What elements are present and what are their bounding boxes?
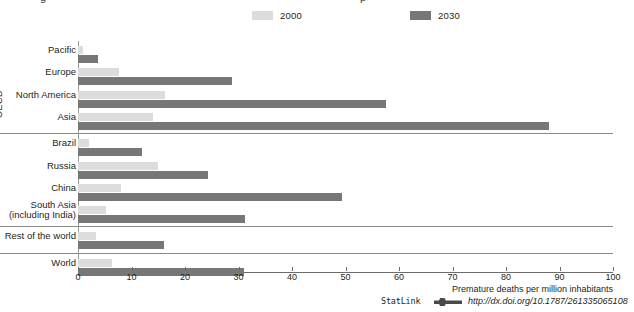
bar-2030-china bbox=[78, 193, 342, 201]
x-tick-label-60: 60 bbox=[394, 272, 404, 282]
title-fragment-left: g bbox=[40, 0, 46, 3]
plot-area bbox=[78, 41, 613, 273]
x-tick-mark bbox=[453, 267, 454, 271]
title-fragment-right: p bbox=[360, 0, 366, 3]
statlink-label: StatLink bbox=[381, 296, 420, 306]
statlink-footer: StatLink http://dx.doi.org/10.1787/26133… bbox=[0, 296, 634, 310]
bar-2000-russia bbox=[78, 162, 158, 170]
x-tick-mark bbox=[292, 267, 293, 271]
bar-2030-asia bbox=[78, 122, 549, 130]
table-row bbox=[78, 183, 613, 202]
bar-2030-rest-of-the-world bbox=[78, 241, 164, 249]
x-tick-label-30: 30 bbox=[233, 272, 243, 282]
bar-2000-rest-of-the-world bbox=[78, 232, 96, 240]
legend-swatch-2000 bbox=[252, 11, 273, 20]
chart-body bbox=[0, 38, 634, 278]
x-tick-label-70: 70 bbox=[447, 272, 457, 282]
x-tick-mark bbox=[613, 267, 614, 271]
table-row bbox=[78, 231, 613, 250]
legend-label-2000: 2000 bbox=[280, 10, 302, 21]
bar-2030-europe bbox=[78, 77, 232, 85]
table-row bbox=[78, 90, 613, 109]
x-tick-mark bbox=[185, 267, 186, 271]
bar-2030-north-america bbox=[78, 100, 386, 108]
x-tick-mark bbox=[132, 267, 133, 271]
x-tick-label-40: 40 bbox=[287, 272, 297, 282]
bar-2030-pacific bbox=[78, 55, 98, 63]
chart-legend: 2000 2030 bbox=[0, 10, 634, 26]
bar-2000-south-asia-including-india bbox=[78, 206, 106, 214]
table-row bbox=[78, 112, 613, 131]
bar-2030-south-asia-including-india bbox=[78, 215, 245, 223]
statlink-url[interactable]: http://dx.doi.org/10.1787/261335065108 bbox=[468, 296, 628, 306]
clipped-title-strip: g p bbox=[0, 0, 634, 6]
x-tick-mark bbox=[78, 267, 79, 271]
bar-2000-world bbox=[78, 259, 112, 267]
table-row bbox=[78, 161, 613, 180]
table-row bbox=[78, 205, 613, 224]
bar-2000-asia bbox=[78, 113, 153, 121]
legend-item-2000[interactable]: 2000 bbox=[252, 10, 302, 21]
bar-2030-brazil bbox=[78, 148, 142, 156]
statlink-icon bbox=[434, 298, 462, 306]
bar-2000-pacific bbox=[78, 46, 83, 54]
x-tick-mark bbox=[239, 267, 240, 271]
x-tick-mark bbox=[399, 267, 400, 271]
table-row bbox=[78, 45, 613, 64]
group-separator bbox=[0, 253, 613, 254]
x-tick-mark bbox=[506, 267, 507, 271]
group-separator bbox=[0, 226, 613, 227]
legend-swatch-2030 bbox=[410, 11, 431, 20]
x-tick-label-0: 0 bbox=[75, 272, 80, 282]
x-tick-label-80: 80 bbox=[501, 272, 511, 282]
bar-2000-brazil bbox=[78, 139, 89, 147]
x-tick-label-10: 10 bbox=[126, 272, 136, 282]
x-axis-title: Premature deaths per million inhabitants bbox=[452, 284, 613, 294]
x-tick-label-20: 20 bbox=[180, 272, 190, 282]
bar-2000-china bbox=[78, 184, 121, 192]
legend-item-2030[interactable]: 2030 bbox=[410, 10, 460, 21]
legend-label-2030: 2030 bbox=[438, 10, 460, 21]
table-row bbox=[78, 67, 613, 86]
bar-2000-europe bbox=[78, 68, 119, 76]
table-row bbox=[78, 138, 613, 157]
x-tick-label-50: 50 bbox=[340, 272, 350, 282]
bar-2000-north-america bbox=[78, 91, 165, 99]
x-tick-mark bbox=[346, 267, 347, 271]
bar-2030-russia bbox=[78, 171, 208, 179]
x-tick-label-90: 90 bbox=[554, 272, 564, 282]
group-separator bbox=[0, 133, 613, 134]
x-tick-label-100: 100 bbox=[605, 272, 620, 282]
x-tick-mark bbox=[560, 267, 561, 271]
